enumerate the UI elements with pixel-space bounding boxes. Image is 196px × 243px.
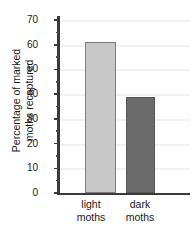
x-category-dark-line-2: moths xyxy=(119,211,161,224)
y-tick-minor xyxy=(56,130,59,132)
gridline xyxy=(59,94,190,96)
y-tick-label: 70 xyxy=(8,15,38,25)
y-tick-minor xyxy=(56,155,59,157)
y-tick-major xyxy=(54,192,59,194)
y-tick-minor xyxy=(56,56,59,58)
bar-light-moths xyxy=(85,42,116,193)
gridline xyxy=(59,45,190,47)
x-category-light-line-1: light xyxy=(70,198,112,211)
y-tick-label: 10 xyxy=(8,163,38,173)
y-tick-label: 20 xyxy=(8,139,38,149)
y-tick-label: 50 xyxy=(8,64,38,74)
gridline xyxy=(59,144,190,146)
y-tick-major xyxy=(54,19,59,21)
y-tick-major xyxy=(54,118,59,120)
x-category-dark-line-1: dark xyxy=(119,198,161,211)
gridline xyxy=(59,168,190,170)
y-tick-label: 30 xyxy=(8,114,38,124)
x-category-label-light-moths: light moths xyxy=(70,198,112,223)
y-tick-label: 60 xyxy=(8,40,38,50)
x-category-label-dark-moths: dark moths xyxy=(119,198,161,223)
gridline xyxy=(59,20,190,22)
plot-area xyxy=(59,20,190,193)
gridline xyxy=(59,119,190,121)
y-tick-major xyxy=(54,69,59,71)
y-tick-major xyxy=(54,93,59,95)
y-tick-minor xyxy=(56,180,59,182)
x-axis-line xyxy=(57,193,190,195)
y-tick-label: 0 xyxy=(8,188,38,198)
y-tick-major xyxy=(54,44,59,46)
y-tick-minor xyxy=(56,32,59,34)
y-tick-label: 40 xyxy=(8,89,38,99)
y-tick-minor xyxy=(56,81,59,83)
x-category-light-line-2: moths xyxy=(70,211,112,224)
bar-dark-moths xyxy=(126,97,155,193)
gridline xyxy=(59,69,190,71)
y-tick-minor xyxy=(56,106,59,108)
y-tick-major xyxy=(54,168,59,170)
y-tick-major xyxy=(54,143,59,145)
bar-chart: Percentage of marked moths recaptured 0 … xyxy=(0,0,196,243)
